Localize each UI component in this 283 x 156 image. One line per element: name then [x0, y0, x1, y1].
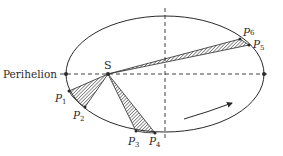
label-p2: P2 — [72, 109, 85, 123]
perihelion-point — [64, 72, 68, 76]
point-p3 — [135, 130, 138, 133]
motion-arrow-icon — [184, 103, 232, 119]
kepler-diagram: Perihelion S P1 P2 P3 P4 P6 P5 — [0, 0, 283, 156]
point-p1 — [68, 90, 71, 93]
sector-p1-p2 — [69, 74, 108, 107]
sun-point — [106, 72, 110, 76]
sector-p5-p6 — [108, 39, 249, 74]
aphelion-point — [262, 72, 266, 76]
label-p6: P6 — [242, 26, 255, 38]
label-p5: P5 — [252, 38, 265, 52]
label-p3: P3 — [127, 135, 140, 149]
point-p6 — [239, 38, 242, 41]
perihelion-label: Perihelion — [3, 68, 57, 80]
point-p5 — [248, 44, 251, 47]
label-p1: P1 — [54, 92, 67, 106]
sun-label: S — [104, 59, 112, 72]
point-p2 — [84, 106, 87, 109]
label-p4: P4 — [148, 135, 161, 149]
